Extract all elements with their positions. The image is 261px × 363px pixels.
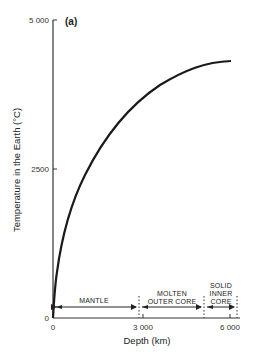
x-axis-label: Depth (km) [124, 335, 171, 346]
chart: 5 000 2500 0 0 3 000 6 000 Depth (km) Te… [0, 0, 261, 363]
region-label-outer-core: MOLTENOUTER CORE [148, 290, 197, 305]
x-tick-label: 0 [51, 323, 56, 332]
panel-label: (a) [65, 16, 77, 27]
temperature-curve [53, 61, 231, 318]
region-label-mantle: MANTLE [79, 297, 109, 304]
y-axis-label: Temperature in the Earth (°C) [11, 108, 22, 232]
x-tick-label: 6 000 [220, 323, 241, 332]
y-tick-label: 0 [45, 314, 50, 323]
region-label-inner-core: SOLIDINNERCORE [210, 282, 233, 305]
x-tick-label: 3 000 [133, 323, 154, 332]
y-tick-label: 5 000 [29, 16, 50, 25]
y-tick-label: 2500 [31, 165, 49, 174]
